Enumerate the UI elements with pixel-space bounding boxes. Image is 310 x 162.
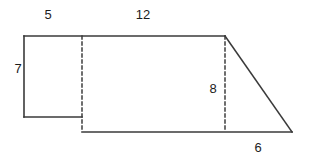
label-8: 8: [209, 82, 216, 95]
figure-canvas: [0, 0, 310, 162]
figure-outline: [24, 36, 292, 132]
label-6: 6: [254, 141, 261, 154]
label-12: 12: [136, 8, 150, 21]
triangle-hypotenuse: [225, 36, 292, 132]
composite-figure-diagram: 512786: [0, 0, 310, 162]
label-7: 7: [14, 62, 21, 75]
dashed-construction-lines: [82, 36, 225, 132]
label-5: 5: [44, 8, 51, 21]
